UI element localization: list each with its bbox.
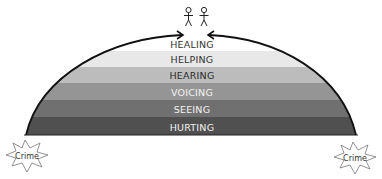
layer-label-voicing: VOICING	[171, 87, 213, 98]
layer-label-hurting: HURTING	[170, 122, 214, 133]
right-crime-starburst: Crime	[334, 142, 376, 174]
left-crime-label: Crime	[15, 152, 39, 161]
restorative-dome-diagram: HEALING HELPING HEARING VOICING SEEING H…	[0, 0, 382, 179]
left-crime-starburst: Crime	[6, 140, 48, 172]
layer-label-healing: HEALING	[170, 39, 214, 50]
layer-label-helping: HELPING	[171, 54, 214, 65]
person-icon	[200, 7, 209, 26]
person-icon	[184, 7, 193, 26]
layer-label-seeing: SEEING	[174, 104, 211, 115]
layer-label-hearing: HEARING	[170, 70, 215, 81]
right-crime-label: Crime	[343, 154, 367, 163]
